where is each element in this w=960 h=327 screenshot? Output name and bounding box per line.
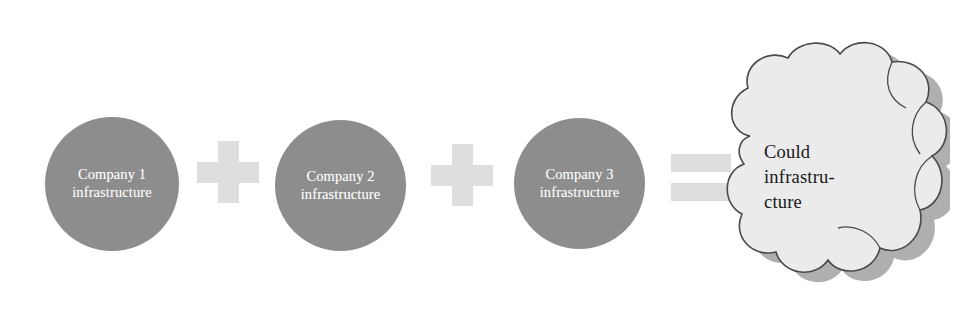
company-2-line-1: Company 2 — [306, 168, 374, 186]
cloud-label-line-3: cture — [764, 190, 868, 215]
plus-operator-icon-1 — [197, 141, 259, 203]
cloud-shape-group: Could infrastru- cture — [706, 20, 950, 310]
company-3-line-2: infrastructure — [540, 184, 620, 202]
company-1-line-2: infrastructure — [72, 184, 152, 202]
company-2-circle: Company 2 infrastructure — [275, 120, 406, 251]
company-3-circle: Company 3 infrastructure — [514, 118, 645, 249]
cloud-label: Could infrastru- cture — [764, 140, 868, 215]
plus-vertical-bar — [452, 144, 473, 206]
company-2-line-2: infrastructure — [301, 186, 381, 204]
company-1-circle: Company 1 infrastructure — [45, 117, 179, 251]
plus-vertical-bar — [218, 141, 239, 203]
company-3-line-1: Company 3 — [545, 166, 613, 184]
company-1-line-1: Company 1 — [78, 166, 146, 184]
cloud-label-line-2: infrastru- — [764, 165, 868, 190]
plus-operator-icon-2 — [431, 144, 493, 206]
cloud-label-line-1: Could — [764, 140, 868, 165]
diagram-canvas: Company 1 infrastructure Company 2 infra… — [0, 0, 960, 327]
